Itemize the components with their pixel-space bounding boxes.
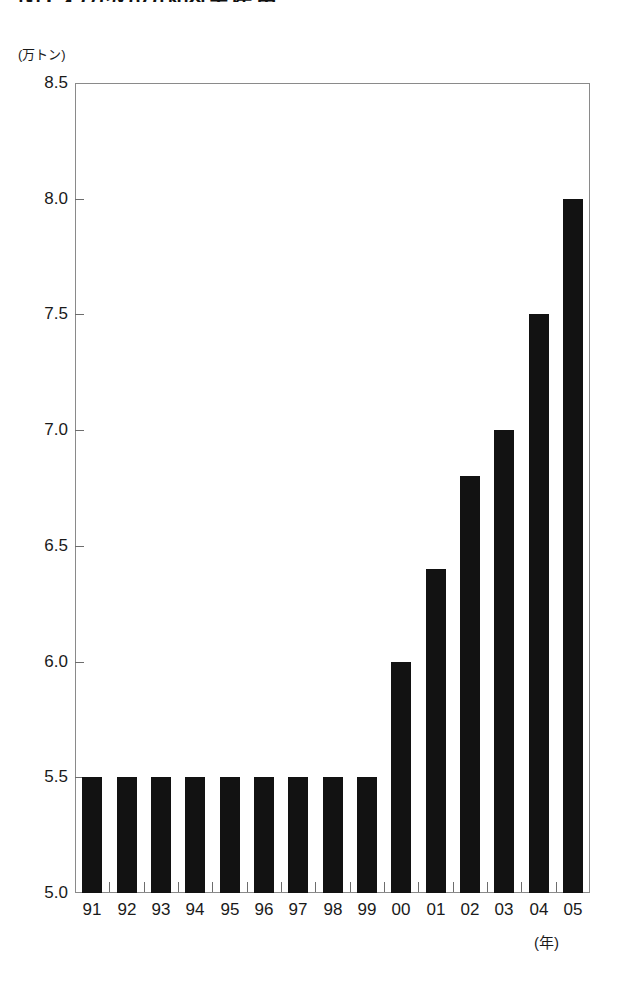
x-axis-tick-mark (315, 882, 316, 892)
bar (185, 777, 205, 893)
x-axis-tick-label: 05 (564, 900, 583, 920)
x-axis-tick-label: 99 (358, 900, 377, 920)
x-axis-tick-label: 95 (221, 900, 240, 920)
bar (426, 569, 446, 893)
x-axis-tick-label: 03 (495, 900, 514, 920)
bar (391, 662, 411, 893)
y-axis-tick-label: 5.5 (44, 767, 68, 787)
x-axis-tick-mark (521, 882, 522, 892)
x-axis-tick-mark (384, 882, 385, 892)
bar (82, 777, 102, 893)
y-axis-tick-label: 6.5 (44, 536, 68, 556)
bar (494, 430, 514, 893)
bar (220, 777, 240, 893)
x-axis-tick-label: 97 (289, 900, 308, 920)
y-axis-tick-label: 7.5 (44, 304, 68, 324)
bar (357, 777, 377, 893)
y-axis-tick-mark (75, 546, 84, 547)
x-axis-tick-label: 92 (118, 900, 137, 920)
x-axis-tick-label: 91 (83, 900, 102, 920)
x-axis-tick-label: 04 (530, 900, 549, 920)
x-axis-tick-label: 02 (461, 900, 480, 920)
y-axis-tick-mark (75, 314, 84, 315)
x-axis-tick-mark (178, 882, 179, 892)
x-axis-tick-mark (418, 882, 419, 892)
x-axis-tick-mark (247, 882, 248, 892)
x-axis-tick-label: 00 (392, 900, 411, 920)
y-axis-tick-label: 8.5 (44, 73, 68, 93)
bar (529, 314, 549, 893)
bar (151, 777, 171, 893)
bar (323, 777, 343, 893)
x-axis-tick-mark (350, 882, 351, 892)
x-axis-tick-label: 01 (427, 900, 446, 920)
bar (563, 199, 583, 893)
y-axis-tick-mark (75, 430, 84, 431)
x-axis-tick-label: 98 (324, 900, 343, 920)
x-axis-tick-label: 94 (186, 900, 205, 920)
y-axis-tick-label: 5.0 (44, 883, 68, 903)
bar (117, 777, 137, 893)
x-axis-tick-mark (212, 882, 213, 892)
x-axis-tick-mark (453, 882, 454, 892)
bar (288, 777, 308, 893)
y-axis-tick-labels: 8.58.07.57.06.56.05.55.0 (0, 0, 68, 987)
x-axis-tick-mark (144, 882, 145, 892)
bar (254, 777, 274, 893)
x-axis-caption: (年) (534, 931, 559, 952)
x-axis-tick-mark (281, 882, 282, 892)
x-axis-tick-mark (556, 882, 557, 892)
x-axis-tick-label: 96 (255, 900, 274, 920)
y-axis-tick-label: 7.0 (44, 420, 68, 440)
bar (460, 476, 480, 893)
y-axis-tick-label: 8.0 (44, 189, 68, 209)
x-axis-tick-label: 93 (152, 900, 171, 920)
y-axis-tick-mark (75, 662, 84, 663)
y-axis-tick-label: 6.0 (44, 652, 68, 672)
y-axis-tick-mark (75, 199, 84, 200)
x-axis-tick-mark (487, 882, 488, 892)
x-axis-tick-mark (109, 882, 110, 892)
